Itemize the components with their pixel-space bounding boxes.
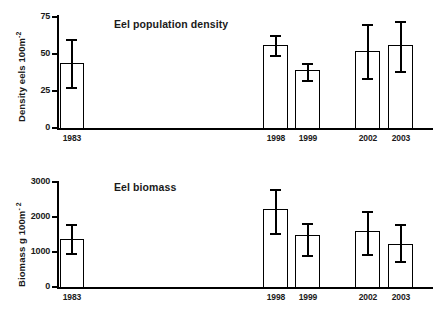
- y-tick-density-0: [52, 127, 57, 129]
- errorbar-density-2002: [367, 24, 369, 79]
- errorcap-top-density-1999: [302, 63, 313, 65]
- y-tick-label-density-25: 25: [20, 85, 50, 95]
- x-tick-label-biomass-1999: 1999: [288, 292, 328, 302]
- y-tick-biomass-0: [52, 286, 57, 288]
- errorbar-biomass-1998: [275, 189, 277, 234]
- errorcap-bottom-biomass-1999: [302, 255, 313, 257]
- errorcap-top-biomass-2002: [362, 211, 373, 213]
- x-tick-label-density-2003: 2003: [381, 133, 421, 143]
- y-tick-label-density-0: 0: [20, 122, 50, 132]
- errorcap-bottom-biomass-1998: [270, 233, 281, 235]
- chart-title-density: Eel population density: [114, 18, 228, 30]
- y-axis-title-density: Density eels 100m-2: [16, 31, 27, 122]
- y-tick-label-biomass-2000: 2000: [10, 211, 50, 221]
- y-tick-label-biomass-0: 0: [10, 281, 50, 291]
- x-tick-label-density-1999: 1999: [288, 133, 328, 143]
- y-tick-label-density-50: 50: [20, 48, 50, 58]
- errorbar-density-1999: [307, 63, 309, 81]
- plot-area-biomass: Eel biomass Biomass g 100m- 2 0 1000 200…: [0, 161, 433, 322]
- errorcap-top-density-1983: [66, 39, 77, 41]
- chart-panel-density: Eel population density Density eels 100m…: [0, 0, 433, 161]
- y-tick-label-density-75: 75: [20, 11, 50, 21]
- y-tick-biomass-2000: [52, 216, 57, 218]
- errorcap-top-biomass-1998: [270, 189, 281, 191]
- y-tick-density-75: [52, 16, 57, 18]
- errorcap-bottom-density-1999: [302, 80, 313, 82]
- errorcap-bottom-density-2002: [362, 78, 373, 80]
- errorbar-biomass-2002: [367, 211, 369, 255]
- errorcap-bottom-biomass-2002: [362, 254, 373, 256]
- errorcap-top-density-1998: [270, 35, 281, 37]
- errorcap-bottom-biomass-2003: [395, 261, 406, 263]
- y-tick-density-50: [52, 53, 57, 55]
- errorbar-biomass-1999: [307, 223, 309, 256]
- errorcap-top-biomass-1983: [66, 224, 77, 226]
- y-tick-label-biomass-3000: 3000: [10, 176, 50, 186]
- x-tick-label-density-1983: 1983: [52, 133, 92, 143]
- plot-area-density: Eel population density Density eels 100m…: [0, 0, 433, 161]
- errorcap-bottom-density-1998: [270, 55, 281, 57]
- errorcap-bottom-biomass-1983: [66, 253, 77, 255]
- chart-title-biomass: Eel biomass: [114, 181, 176, 193]
- errorcap-top-biomass-2003: [395, 224, 406, 226]
- x-tick-label-biomass-2003: 2003: [381, 292, 421, 302]
- y-axis-title-density-exponent: -2: [15, 31, 22, 37]
- y-tick-density-25: [52, 90, 57, 92]
- y-axis-title-biomass-exponent: - 2: [15, 202, 22, 210]
- errorcap-top-biomass-1999: [302, 223, 313, 225]
- y-axis-line-density: [57, 15, 59, 130]
- errorbar-biomass-2003: [400, 224, 402, 262]
- eel-population-figure: Eel population density Density eels 100m…: [0, 0, 433, 323]
- errorbar-density-2003: [400, 21, 402, 72]
- chart-panel-biomass: Eel biomass Biomass g 100m- 2 0 1000 200…: [0, 161, 433, 322]
- errorbar-density-1998: [275, 35, 277, 56]
- y-tick-biomass-1000: [52, 251, 57, 253]
- errorcap-bottom-density-1983: [66, 87, 77, 89]
- y-tick-biomass-3000: [52, 181, 57, 183]
- y-tick-label-biomass-1000: 1000: [10, 246, 50, 256]
- bar-density-1998: [263, 45, 288, 129]
- errorbar-biomass-1983: [71, 224, 73, 254]
- errorcap-bottom-density-2003: [395, 71, 406, 73]
- errorbar-density-1983: [71, 39, 73, 88]
- x-tick-label-biomass-1983: 1983: [52, 292, 92, 302]
- errorcap-top-density-2002: [362, 24, 373, 26]
- y-axis-line-biomass: [57, 181, 59, 289]
- errorcap-top-density-2003: [395, 21, 406, 23]
